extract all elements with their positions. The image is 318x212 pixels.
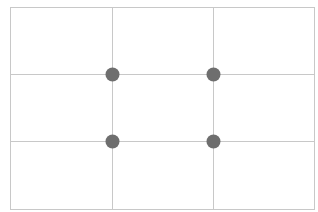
rule-of-thirds-diagram xyxy=(0,0,318,212)
intersection-point-4 xyxy=(207,135,221,149)
horizontal-gridlines xyxy=(10,75,314,142)
outer-frame xyxy=(11,8,315,210)
intersection-point-2 xyxy=(207,68,221,82)
intersection-point-1 xyxy=(106,68,120,82)
vertical-gridlines xyxy=(113,7,214,209)
intersection-point-3 xyxy=(106,135,120,149)
intersection-points xyxy=(106,68,221,149)
